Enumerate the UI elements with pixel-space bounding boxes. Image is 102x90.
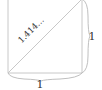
- bottom-side-label: 1: [37, 78, 44, 90]
- diagonal-label: 1.414…: [16, 15, 46, 45]
- square-diagram: 1 1 1.414…: [0, 0, 102, 90]
- bottom-brace: [8, 73, 82, 81]
- right-side-label: 1: [89, 30, 96, 43]
